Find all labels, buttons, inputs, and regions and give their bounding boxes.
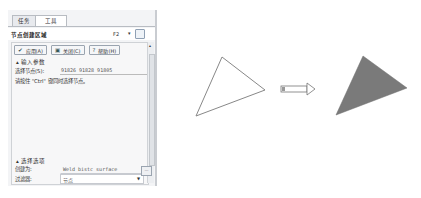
wireframe-triangle [196, 57, 265, 116]
right-arrow-icon [281, 83, 315, 95]
diagram-canvas [0, 0, 421, 198]
filled-surface-triangle [336, 56, 407, 115]
